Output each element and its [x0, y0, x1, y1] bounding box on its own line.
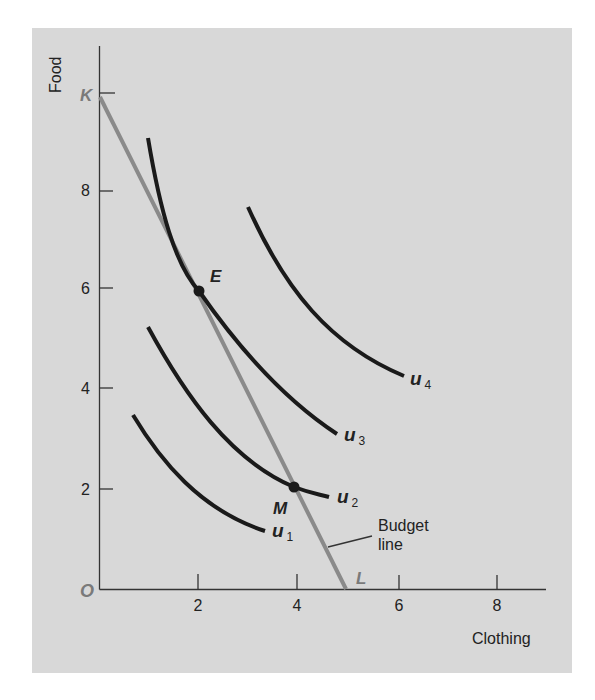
budget-line: [100, 97, 346, 589]
x-tick-label-8: 8: [487, 598, 507, 614]
point-m: [289, 482, 300, 493]
y-tick-label-4: 4: [70, 381, 90, 397]
indifference-curve-u3: [148, 138, 337, 434]
origin-label: O: [80, 582, 94, 600]
point-l-label: L: [356, 570, 366, 587]
y-tick-label-6: 6: [70, 281, 90, 297]
y-axis-title: Food: [48, 57, 64, 93]
u4-label: u4: [410, 369, 431, 391]
budget-line-annotation: Budget line: [378, 516, 429, 554]
y-ticks: [100, 93, 116, 489]
indifference-curve-u1: [133, 415, 265, 531]
x-tick-label-4: 4: [287, 598, 307, 614]
point-e: [194, 286, 205, 297]
x-axis-title: Clothing: [472, 631, 531, 647]
y-tick-label-2: 2: [70, 482, 90, 498]
indifference-curve-u4: [248, 207, 404, 376]
budget-line-annotation-line2: line: [378, 535, 429, 554]
u1-label: u1: [272, 521, 293, 543]
budget-line-pointer: [328, 536, 372, 547]
x-tick-label-6: 6: [389, 598, 409, 614]
y-tick-label-8: 8: [70, 183, 90, 199]
budget-line-annotation-line1: Budget: [378, 516, 429, 535]
x-ticks: [198, 574, 497, 590]
x-tick-label-2: 2: [188, 598, 208, 614]
u3-label: u3: [344, 425, 365, 447]
point-m-label: M: [273, 500, 287, 517]
u2-label: u2: [337, 487, 358, 509]
point-e-label: E: [210, 268, 221, 285]
point-k-label: K: [80, 87, 92, 104]
